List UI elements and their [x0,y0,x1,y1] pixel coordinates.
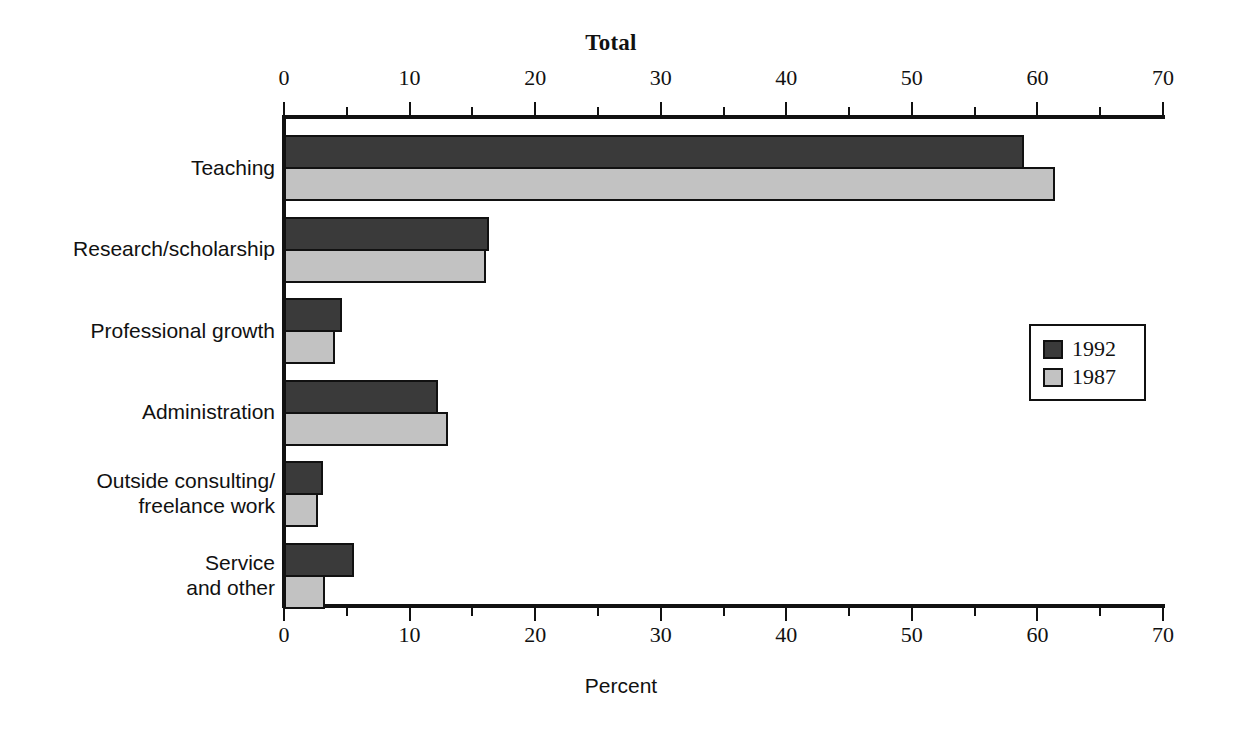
tick-label-top-60: 60 [1007,65,1067,91]
legend-swatch-1987-icon [1043,368,1063,387]
tick-label-top-70: 70 [1133,65,1193,91]
minor-tick-top-45 [848,107,850,115]
major-tick-bottom-30 [660,608,662,621]
bar-1987-5 [284,575,325,609]
category-label-0: Teaching [191,155,275,180]
major-tick-top-50 [911,102,913,115]
bar-1987-3 [284,412,448,446]
x-axis-label: Percent [0,674,1242,698]
legend-item-1987[interactable]: 1987 [1043,366,1116,388]
minor-tick-bottom-55 [974,608,976,616]
tick-label-bottom-20: 20 [505,622,565,648]
bar-1992-2 [284,298,342,332]
minor-tick-top-65 [1099,107,1101,115]
category-label-3: Administration [142,399,275,424]
legend-label-1987: 1987 [1072,366,1116,388]
bar-1987-1 [284,249,486,283]
minor-tick-top-25 [597,107,599,115]
tick-label-top-40: 40 [756,65,816,91]
bar-1992-1 [284,217,489,251]
minor-tick-bottom-45 [848,608,850,616]
minor-tick-top-55 [974,107,976,115]
minor-tick-top-15 [471,107,473,115]
major-tick-bottom-20 [534,608,536,621]
tick-label-top-30: 30 [631,65,691,91]
major-tick-top-0 [283,102,285,115]
category-label-2: Professional growth [91,318,275,343]
tick-label-top-50: 50 [882,65,942,91]
tick-label-top-0: 0 [254,65,314,91]
bar-1992-5 [284,543,354,577]
legend-label-1992: 1992 [1072,338,1116,360]
major-tick-top-70 [1162,102,1164,115]
chart-title: Total [0,30,1232,56]
category-label-1: Research/scholarship [73,236,275,261]
minor-tick-top-35 [723,107,725,115]
major-tick-bottom-50 [911,608,913,621]
major-tick-bottom-0 [283,608,285,621]
legend-item-1992[interactable]: 1992 [1043,338,1116,360]
minor-tick-bottom-65 [1099,608,1101,616]
minor-tick-bottom-35 [723,608,725,616]
tick-label-top-10: 10 [380,65,440,91]
category-label-5: Service and other [186,550,275,600]
bar-1987-2 [284,330,335,364]
bar-1992-3 [284,380,438,414]
major-tick-bottom-40 [785,608,787,621]
major-tick-bottom-60 [1036,608,1038,621]
tick-label-bottom-0: 0 [254,622,314,648]
major-tick-top-40 [785,102,787,115]
bar-1987-0 [284,167,1055,201]
major-tick-top-30 [660,102,662,115]
category-label-4: Outside consulting/ freelance work [96,468,275,518]
major-tick-top-60 [1036,102,1038,115]
major-tick-top-20 [534,102,536,115]
tick-label-bottom-30: 30 [631,622,691,648]
minor-tick-bottom-25 [597,608,599,616]
tick-label-bottom-10: 10 [380,622,440,648]
major-tick-bottom-70 [1162,608,1164,621]
tick-label-bottom-40: 40 [756,622,816,648]
minor-tick-top-5 [346,107,348,115]
bar-1992-4 [284,461,323,495]
legend-swatch-1992-icon [1043,340,1063,359]
legend: 1992 1987 [1029,324,1146,401]
tick-label-bottom-50: 50 [882,622,942,648]
bar-chart: Total 010203040506070 010203040506070 Te… [0,0,1242,733]
tick-label-bottom-70: 70 [1133,622,1193,648]
tick-label-top-20: 20 [505,65,565,91]
minor-tick-bottom-15 [471,608,473,616]
bar-1987-4 [284,493,318,527]
minor-tick-bottom-5 [346,608,348,616]
major-tick-bottom-10 [409,608,411,621]
bar-1992-0 [284,135,1024,169]
major-tick-top-10 [409,102,411,115]
tick-label-bottom-60: 60 [1007,622,1067,648]
